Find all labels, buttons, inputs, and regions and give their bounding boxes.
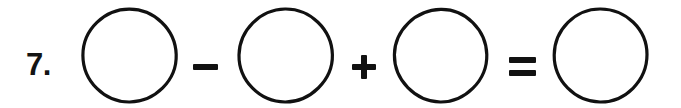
operator-equals-icon: = xyxy=(509,57,536,76)
operator-minus-icon: − xyxy=(193,64,218,70)
plus-vertical-bar xyxy=(361,55,367,79)
empty-circle-icon xyxy=(391,6,490,105)
answer-circle-3[interactable] xyxy=(391,6,490,105)
problem-number-label: 7. xyxy=(26,46,66,84)
answer-circle-4[interactable] xyxy=(551,6,650,105)
equals-bottom-bar xyxy=(509,70,536,76)
empty-circle-icon xyxy=(236,6,335,105)
empty-circle-icon xyxy=(551,6,650,105)
equals-top-bar xyxy=(509,57,536,63)
empty-circle-icon xyxy=(80,6,179,105)
worksheet-problem-row: 7. − + = xyxy=(0,0,681,108)
operator-plus-icon: + xyxy=(352,55,376,79)
answer-circle-2[interactable] xyxy=(236,6,335,105)
answer-circle-1[interactable] xyxy=(80,6,179,105)
